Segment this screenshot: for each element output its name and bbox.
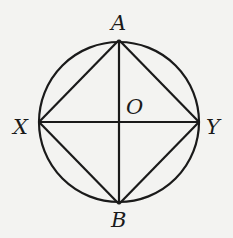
geometry-diagram: A B X Y O [0,0,233,238]
label-point-a: A [111,13,126,34]
label-center-o: O [126,97,143,118]
diagram-figure [0,0,233,238]
label-point-b: B [111,210,126,231]
label-point-x: X [13,117,28,138]
label-point-y: Y [206,117,220,138]
